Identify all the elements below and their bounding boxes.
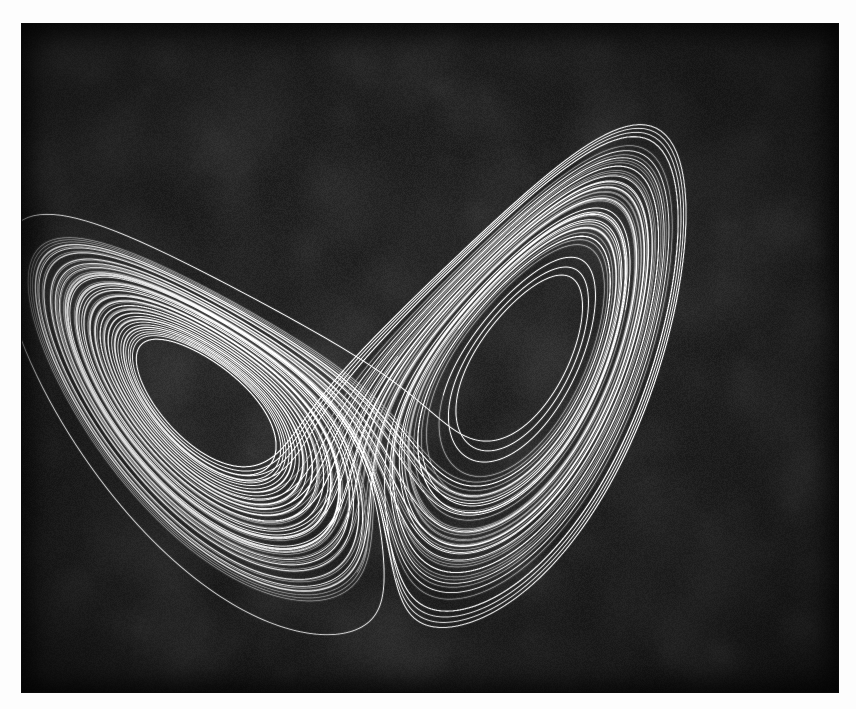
figure-page: Lorenz attractor [0,0,856,709]
page-title: Lorenz attractor [0,21,1,22]
lorenz-attractor-figure [22,24,838,692]
lorenz-trajectory-plot [22,24,838,692]
